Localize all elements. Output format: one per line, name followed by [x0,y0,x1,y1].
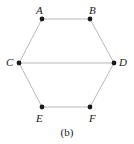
vertex-label-c: C [6,57,13,68]
graph-edge [19,63,42,107]
vertex-label-d: D [119,57,127,68]
graph-vertex [112,61,117,66]
graph-edge [90,19,114,63]
graph-vertex [17,61,22,66]
graph-edge [19,19,42,63]
vertex-label-b: B [89,5,96,16]
graph-edge [90,63,114,107]
graph-vertex [88,105,93,110]
hexagon-graph-figure: ABCDEF (b) [0,0,134,144]
figure-caption: (b) [0,126,134,138]
graph-vertex [88,17,93,22]
vertex-label-a: A [36,5,43,16]
vertex-label-f: F [89,113,96,124]
graph-vertex [40,17,45,22]
vertex-label-e: E [36,113,43,124]
edge-layer [19,19,114,107]
graph-canvas [0,0,134,144]
graph-vertex [40,105,45,110]
